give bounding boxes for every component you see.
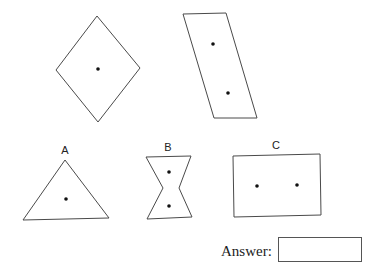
dot: [255, 184, 259, 188]
answer-label: Answer:: [221, 242, 272, 260]
puzzle-canvas: A B C: [0, 0, 378, 272]
option-c[interactable]: C: [233, 139, 321, 217]
answer-input[interactable]: [278, 237, 362, 262]
option-b-label: B: [164, 141, 171, 153]
dot: [226, 91, 230, 95]
dot: [96, 67, 100, 71]
dot: [167, 170, 171, 174]
option-b[interactable]: B: [146, 141, 192, 219]
example-parallelogram: [183, 13, 257, 118]
parallelogram-outline: [183, 13, 257, 118]
dot: [211, 42, 215, 46]
hourglass-outline: [146, 156, 192, 219]
dot: [167, 204, 171, 208]
example-rhombus: [56, 16, 140, 122]
option-a[interactable]: A: [23, 144, 109, 220]
rectangle-outline: [233, 154, 321, 217]
option-a-label: A: [61, 144, 69, 156]
dot: [295, 183, 299, 187]
dot: [64, 197, 68, 201]
triangle-outline: [23, 160, 109, 220]
option-c-label: C: [272, 139, 280, 151]
